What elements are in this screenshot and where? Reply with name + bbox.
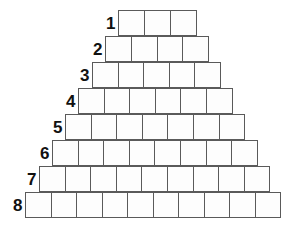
row-number-label: 7 [27, 171, 36, 188]
row-cells [65, 114, 245, 140]
pyramid-cell [116, 166, 143, 192]
row-number-label: 2 [93, 41, 102, 58]
pyramid-row: 3 [92, 62, 221, 88]
pyramid-cell [92, 62, 119, 88]
row-number-label: 3 [80, 67, 89, 84]
row-number-label: 5 [53, 119, 62, 136]
pyramid-cell [129, 140, 156, 166]
pyramid-cell [78, 88, 105, 114]
row-cells [25, 192, 281, 218]
pyramid-cell [157, 36, 184, 62]
pyramid-cell [194, 62, 221, 88]
pyramid-cell [129, 88, 156, 114]
pyramid-cell [206, 140, 233, 166]
pyramid-row: 8 [25, 192, 281, 218]
pyramid-cell [118, 10, 145, 36]
pyramid-cell [141, 166, 168, 192]
pyramid-cell [65, 114, 92, 140]
pyramid-cell [180, 140, 207, 166]
pyramid-cell [182, 36, 209, 62]
row-cells [39, 166, 270, 192]
pyramid-cell [167, 166, 194, 192]
row-number-label: 4 [66, 93, 75, 110]
row-number-label: 1 [106, 15, 115, 32]
row-cells [105, 36, 209, 62]
pyramid-cell [178, 192, 205, 218]
pyramid-row: 6 [52, 140, 258, 166]
row-cells [92, 62, 221, 88]
row-number-label: 8 [13, 197, 22, 214]
row-cells [118, 10, 197, 36]
pyramid-cell [39, 166, 66, 192]
pyramid-cell [52, 140, 79, 166]
pyramid-cell [116, 114, 143, 140]
pyramid-cell [104, 88, 131, 114]
pyramid-cell [154, 140, 181, 166]
pyramid-cell [127, 192, 154, 218]
pyramid-cell [206, 88, 233, 114]
row-number-label: 6 [40, 145, 49, 162]
row-cells [78, 88, 233, 114]
pyramid-cell [167, 114, 194, 140]
pyramid-cell [144, 10, 171, 36]
pyramid-cell [25, 192, 52, 218]
pyramid-row: 7 [39, 166, 270, 192]
pyramid-cell [219, 114, 246, 140]
pyramid-cell [78, 140, 105, 166]
pyramid-cell [153, 192, 180, 218]
pyramid-cell [102, 192, 129, 218]
pyramid-cell [118, 62, 145, 88]
pyramid-cell [90, 166, 117, 192]
pyramid-row: 1 [118, 10, 197, 36]
pyramid-cell [65, 166, 92, 192]
pyramid-row: 5 [65, 114, 245, 140]
pyramid-cell [131, 36, 158, 62]
pyramid-cell [255, 192, 282, 218]
pyramid-cell [76, 192, 103, 218]
pyramid-cell [143, 62, 170, 88]
pyramid-cell [142, 114, 169, 140]
pyramid-cell [218, 166, 245, 192]
pyramid-row: 4 [78, 88, 233, 114]
pyramid-figure: 12345678 [0, 0, 298, 228]
pyramid-row: 2 [105, 36, 209, 62]
pyramid-cell [244, 166, 271, 192]
row-cells [52, 140, 258, 166]
pyramid-cell [51, 192, 78, 218]
pyramid-cell [91, 114, 118, 140]
pyramid-cell [193, 166, 220, 192]
pyramid-cell [155, 88, 182, 114]
pyramid-cell [229, 192, 256, 218]
pyramid-cell [105, 36, 132, 62]
pyramid-cell [204, 192, 231, 218]
pyramid-cell [169, 62, 196, 88]
pyramid-cell [180, 88, 207, 114]
pyramid-cell [103, 140, 130, 166]
pyramid-cell [231, 140, 258, 166]
pyramid-cell [170, 10, 197, 36]
pyramid-cell [193, 114, 220, 140]
